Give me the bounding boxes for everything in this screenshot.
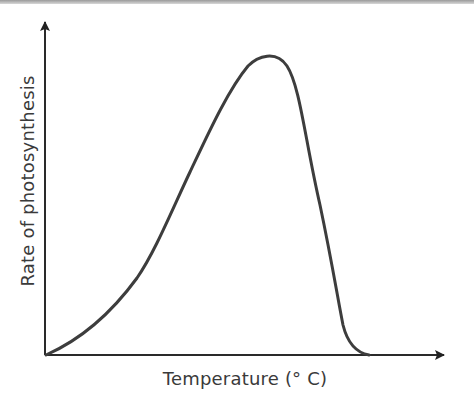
chart-plot-area	[0, 0, 474, 406]
y-axis-label: Rate of photosynthesis	[17, 75, 38, 286]
rate-curve	[46, 56, 369, 355]
x-axis-label: Temperature (° C)	[0, 368, 474, 389]
